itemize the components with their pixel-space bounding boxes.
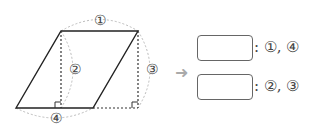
answer-box-2[interactable] [197, 74, 253, 100]
marker-1: ① [94, 12, 107, 28]
parallelogram-diagram: ① ② ③ ④ [0, 0, 322, 126]
marker-3: ③ [146, 61, 159, 77]
answer-label-1: : ①, ④ [254, 38, 299, 56]
answer-label-2: : ②, ③ [254, 77, 299, 95]
right-angle-right [132, 102, 138, 108]
arrow-icon: ➜ [175, 63, 188, 82]
answer-box-1[interactable] [197, 35, 253, 61]
marker-4: ④ [50, 110, 63, 126]
right-angle-left [55, 102, 61, 108]
marker-2: ② [69, 61, 82, 77]
